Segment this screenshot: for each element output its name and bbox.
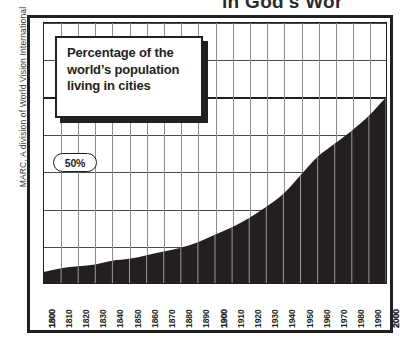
x-tick-1970: 1970	[339, 288, 349, 328]
page-headline-fragment: in God's Wor	[222, 0, 409, 9]
x-tick-2000: 2000	[391, 288, 401, 328]
x-tick-1980: 1980	[356, 288, 366, 328]
x-tick-1870: 1870	[167, 288, 177, 328]
x-tick-1900: 1900	[219, 288, 229, 328]
x-tick-1860: 1860	[150, 288, 160, 328]
x-tick-1920: 1920	[253, 288, 263, 328]
callout-text: Percentage of the world’s population liv…	[67, 45, 193, 95]
x-tick-1940: 1940	[287, 288, 297, 328]
callout-line-2: world’s population	[67, 62, 193, 79]
x-tick-1850: 1850	[133, 288, 143, 328]
callout-box: Percentage of the world’s population liv…	[55, 36, 203, 118]
x-tick-1810: 1810	[64, 288, 74, 328]
x-tick-1990: 1990	[373, 288, 383, 328]
x-tick-1960: 1960	[322, 288, 332, 328]
x-tick-1880: 1880	[184, 288, 194, 328]
x-tick-1820: 1820	[81, 288, 91, 328]
x-tick-1890: 1890	[201, 288, 211, 328]
x-tick-1930: 1930	[270, 288, 280, 328]
x-tick-1830: 1830	[98, 288, 108, 328]
fifty-percent-label: 50%	[53, 153, 97, 172]
x-tick-1950: 1950	[305, 288, 315, 328]
callout-line-3: living in cities	[67, 78, 193, 95]
x-tick-1840: 1840	[115, 288, 125, 328]
x-tick-1910: 1910	[236, 288, 246, 328]
x-axis-tick-labels: 1800181018201830184018501860187018801890…	[43, 288, 387, 332]
x-tick-1800: 1800	[47, 288, 57, 328]
callout-line-1: Percentage of the	[67, 45, 193, 62]
